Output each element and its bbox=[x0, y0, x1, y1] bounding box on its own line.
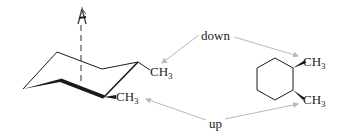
label-down: down bbox=[201, 28, 230, 43]
eye-icon bbox=[78, 9, 86, 24]
chair-methyl-upper: CH3 bbox=[150, 64, 173, 81]
diagram-canvas: CH3 CH3 down up CH3 CH3 bbox=[0, 0, 346, 137]
flat-ring-structure bbox=[257, 58, 306, 100]
ring-methyl-top: CH3 bbox=[303, 54, 326, 71]
ring-methyl-bottom: CH3 bbox=[303, 92, 326, 109]
label-up: up bbox=[209, 116, 222, 131]
chair-methyl-lower: CH3 bbox=[116, 89, 139, 106]
